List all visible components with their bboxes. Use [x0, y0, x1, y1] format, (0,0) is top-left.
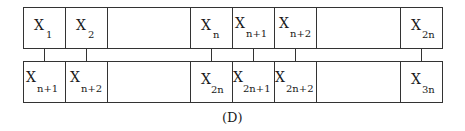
connector-line: [295, 49, 296, 61]
top-cell-n-plus-2: X n+2: [275, 8, 317, 48]
cell-main-label: X: [26, 70, 36, 84]
bottom-cell-3n: X 3n: [401, 62, 444, 102]
cell-subscript: n+1: [246, 29, 267, 39]
connector-line: [211, 49, 212, 61]
cell-subscript: n+2: [81, 84, 102, 94]
bottom-cell-2n-plus-1: X 2n+1: [233, 62, 275, 102]
top-cell-gap-2: [317, 8, 401, 48]
cell-subscript: 3n: [422, 85, 435, 95]
connector-line: [421, 49, 422, 61]
cell-main-label: X: [411, 72, 421, 86]
cell-subscript: 2n: [211, 85, 224, 95]
cell-main-label: X: [411, 18, 421, 32]
cell-subscript: n+2: [290, 29, 311, 39]
cell-main-label: X: [275, 70, 285, 84]
bottom-row: X n+1 X n+2 X 2n X 2n+1 X 2n+2 X 3n: [23, 61, 443, 103]
bottom-cell-2n: X 2n: [191, 62, 233, 102]
connector-line: [44, 49, 45, 61]
connector-line: [86, 49, 87, 61]
cell-subscript: n: [213, 30, 219, 40]
cell-main-label: X: [70, 70, 80, 84]
cell-subscript: n+1: [37, 84, 58, 94]
top-cell-gap: [108, 8, 191, 48]
bottom-cell-n-plus-2: X n+2: [66, 62, 108, 102]
cell-main-label: X: [201, 18, 211, 32]
bottom-cell-n-plus-1: X n+1: [24, 62, 66, 102]
top-cell-n: X n: [191, 8, 233, 48]
cell-subscript: 2n: [422, 30, 435, 40]
cell-subscript: 2: [88, 30, 94, 40]
cell-main-label: X: [76, 18, 86, 32]
top-cell-1: X 1: [24, 8, 66, 48]
cell-main-label: X: [233, 70, 243, 84]
top-cell-n-plus-1: X n+1: [233, 8, 275, 48]
bottom-cell-gap-2: [317, 62, 401, 102]
cell-main-label: X: [201, 72, 211, 86]
cell-subscript: 2n+1: [243, 84, 271, 94]
cell-subscript: 2n+2: [286, 84, 314, 94]
top-row: X 1 X 2 X n X n+1 X n+2 X 2n: [23, 7, 443, 49]
cell-main-label: X: [34, 18, 44, 32]
top-cell-2n: X 2n: [401, 8, 444, 48]
connector-line: [253, 49, 254, 61]
cell-main-label: X: [279, 16, 289, 30]
figure-caption: (D): [222, 110, 243, 125]
top-cell-2: X 2: [66, 8, 108, 48]
bottom-cell-gap: [108, 62, 191, 102]
cell-subscript: 1: [46, 30, 52, 40]
cell-main-label: X: [235, 16, 245, 30]
bottom-cell-2n-plus-2: X 2n+2: [275, 62, 317, 102]
